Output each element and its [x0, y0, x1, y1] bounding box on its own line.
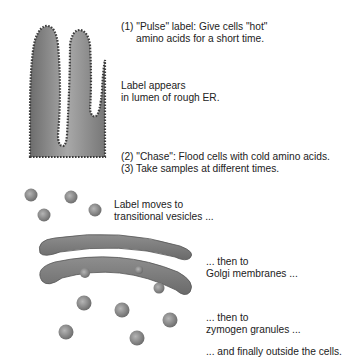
golgi-bud — [80, 268, 90, 278]
rough-er-label: Label appears in lumen of rough ER. — [121, 80, 220, 104]
chase-line-1: (2) "Chase": Flood cells with cold amino… — [121, 151, 330, 163]
zymogen-line-2: zymogen granules ... — [206, 324, 301, 336]
pulse-line-1: (1) "Pulse" label: Give cells "hot" — [121, 21, 267, 33]
rough-er-shape — [30, 26, 105, 157]
zymogen-granules — [59, 296, 178, 346]
golgi-bud — [154, 283, 165, 294]
golgi-cisterna-upper — [39, 234, 191, 259]
golgi-illustration — [39, 234, 191, 294]
granule — [130, 331, 145, 346]
granule — [115, 303, 130, 318]
golgi-line-1: ... then to — [206, 256, 298, 268]
diagram-canvas — [0, 0, 353, 364]
transitional-line-2: transitional vesicles ... — [114, 211, 214, 223]
pulse-line-2: amino acids for a short time. — [121, 33, 267, 45]
rough-er-illustration — [30, 26, 105, 157]
transitional-vesicles — [25, 189, 102, 222]
golgi-bud — [135, 266, 143, 274]
vesicle — [89, 204, 102, 217]
rough-er-line-1: Label appears — [121, 80, 220, 92]
transitional-line-1: Label moves to — [114, 199, 214, 211]
chase-label: (2) "Chase": Flood cells with cold amino… — [121, 151, 330, 175]
zymogen-label: ... then to zymogen granules ... — [206, 312, 301, 336]
transitional-label: Label moves to transitional vesicles ... — [114, 199, 214, 223]
vesicle — [38, 209, 51, 222]
granule — [77, 296, 92, 311]
pulse-label: (1) "Pulse" label: Give cells "hot" amin… — [121, 21, 267, 45]
outside-label: ... and finally outside the cells. — [206, 346, 342, 358]
granule — [163, 313, 178, 328]
vesicle — [25, 189, 38, 202]
zymogen-line-1: ... then to — [206, 312, 301, 324]
golgi-label: ... then to Golgi membranes ... — [206, 256, 298, 280]
vesicle — [65, 191, 78, 204]
golgi-line-2: Golgi membranes ... — [206, 268, 298, 280]
outside-line-1: ... and finally outside the cells. — [206, 346, 342, 358]
granule — [59, 325, 74, 340]
golgi-cisterna-lower — [40, 257, 192, 295]
rough-er-line-2: in lumen of rough ER. — [121, 92, 220, 104]
chase-line-2: (3) Take samples at different times. — [121, 163, 330, 175]
